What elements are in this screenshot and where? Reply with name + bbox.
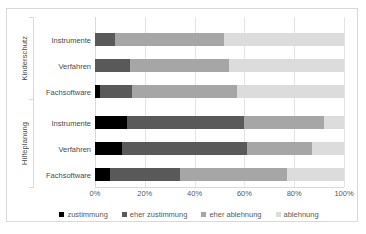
bar-segment (244, 116, 324, 129)
group-axis: Kinderschutz Hilfeplanung (15, 17, 33, 187)
bar-segment (130, 59, 230, 72)
legend-item[interactable]: ablehnung (276, 210, 319, 219)
bar-segment (127, 116, 244, 129)
chart-frame: Kinderschutz Hilfeplanung InstrumenteVer… (6, 8, 358, 222)
group-axis-label-text: Hilfeplanung (20, 122, 29, 165)
bar-segment (247, 142, 312, 155)
category-axis-label: Instrumente (51, 110, 91, 136)
category-axis-label: Verfahren (58, 136, 91, 162)
bar-segment (122, 142, 247, 155)
category-axis-label: Fachsoftware (46, 162, 91, 188)
legend-label: zustimmung (67, 210, 107, 219)
bar-row (95, 33, 344, 46)
chart-legend: zustimmungeher zustimmungeher ablehnunga… (17, 207, 361, 221)
legend-swatch-icon (122, 212, 127, 217)
category-axis: InstrumenteVerfahrenFachsoftwareInstrume… (35, 17, 93, 187)
legend-label: ablehnung (284, 210, 319, 219)
bar-segment (324, 116, 344, 129)
bar-segment (95, 59, 130, 72)
bar-segment (287, 168, 344, 181)
gridline (344, 17, 345, 187)
category-axis-label: Instrumente (51, 27, 91, 53)
value-axis-tick-label: 20% (125, 189, 165, 198)
legend-swatch-icon (201, 212, 206, 217)
legend-label: eher zustimmung (130, 210, 188, 219)
bar-segment (237, 85, 344, 98)
legend-item[interactable]: eher zustimmung (122, 210, 188, 219)
value-axis-tick-label: 40% (175, 189, 215, 198)
bar-segment (132, 85, 237, 98)
bar-segment (312, 142, 344, 155)
legend-swatch-icon (276, 212, 281, 217)
bar-row (95, 116, 344, 129)
legend-item[interactable]: zustimmung (59, 210, 107, 219)
bar-segment (100, 85, 132, 98)
bar-segment (180, 168, 287, 181)
legend-label: eher ablehnung (209, 210, 261, 219)
bar-segment (95, 142, 122, 155)
group-axis-label-hilfeplanung: Hilfeplanung (15, 101, 33, 185)
bar-segment (224, 33, 344, 46)
group-axis-label-kinderschutz: Kinderschutz (15, 17, 33, 99)
legend-item[interactable]: eher ablehnung (201, 210, 261, 219)
plot-area (95, 17, 344, 187)
legend-swatch-icon (59, 212, 64, 217)
bar-row (95, 85, 344, 98)
category-axis-tick (29, 99, 34, 100)
category-axis-tick (29, 17, 34, 18)
group-axis-label-text: Kinderschutz (20, 36, 29, 81)
bar-segment (95, 168, 110, 181)
bar-segment (95, 116, 127, 129)
value-axis-tick-label: 100% (324, 189, 364, 198)
category-axis-label: Fachsoftware (46, 79, 91, 105)
bar-row (95, 59, 344, 72)
value-axis-tick-label: 80% (274, 189, 314, 198)
bar-segment (95, 33, 115, 46)
bar-row (95, 168, 344, 181)
category-axis-label: Verfahren (58, 53, 91, 79)
bar-segment (115, 33, 225, 46)
bar-segment (110, 168, 180, 181)
bar-row (95, 142, 344, 155)
value-axis-tick-label: 0% (75, 189, 115, 198)
value-axis-ticks: 0%20%40%60%80%100% (95, 189, 344, 201)
category-axis-tick (29, 187, 34, 188)
value-axis-tick-label: 60% (224, 189, 264, 198)
bar-segment (229, 59, 344, 72)
value-axis-baseline (95, 187, 344, 188)
category-axis-line (33, 17, 34, 187)
